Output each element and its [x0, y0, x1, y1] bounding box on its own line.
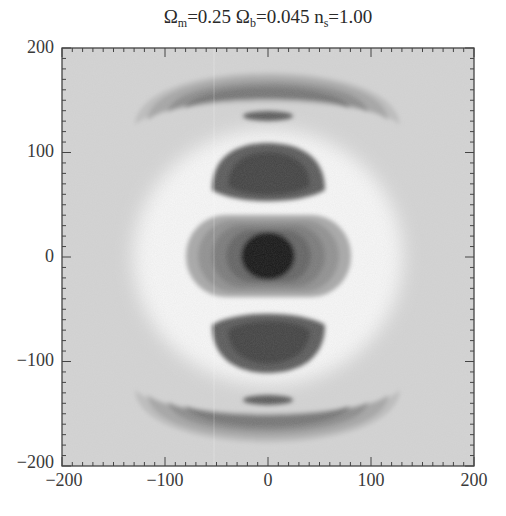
x-tick-label: −100 [135, 470, 195, 491]
grain-overlay [62, 48, 474, 466]
x-tick-label: 0 [238, 470, 298, 491]
y-tick-label: −100 [4, 350, 54, 371]
y-tick-label: 0 [4, 246, 54, 267]
contour-field [62, 48, 474, 466]
contour-figure: Ωm=0.25 Ωb=0.045 ns=1.00 [0, 0, 506, 516]
x-tick-label: 100 [341, 470, 401, 491]
x-tick-label: −200 [34, 470, 94, 491]
x-tick-label: 200 [444, 470, 504, 491]
y-tick-label: 100 [4, 141, 54, 162]
plot-area [0, 0, 506, 516]
y-tick-label: 200 [4, 37, 54, 58]
